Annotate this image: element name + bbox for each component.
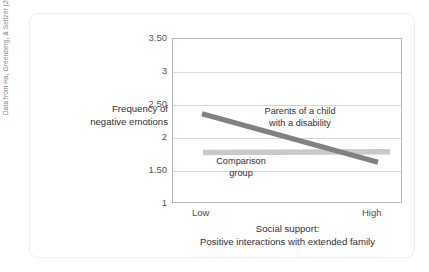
series-label-comparison-group: Comparison group xyxy=(198,155,284,179)
series-label-line-2: group xyxy=(198,167,284,179)
y-tick-label-2: 2 xyxy=(122,132,167,142)
x-tick-label-high: High xyxy=(362,207,382,218)
source-credit: Data from Ha, Greenberg, & Seltzer (2011… xyxy=(0,0,11,115)
gridline-2 xyxy=(173,138,401,139)
y-axis-title-line-1: Frequency of xyxy=(56,103,168,116)
x-axis-title: Social support: Positive interactions wi… xyxy=(150,223,425,248)
y-tick-label-3-50: 3.50 xyxy=(122,33,167,43)
series-label-parents-of-child-with-disability: Parents of a child with a disability xyxy=(239,105,361,129)
y-tick-label-1: 1 xyxy=(122,198,167,208)
x-axis-title-line-1: Social support: xyxy=(150,223,425,236)
y-axis-title-line-2: negative emotions xyxy=(56,116,168,129)
series-label-line-1: Parents of a child xyxy=(239,105,361,117)
gridline-3 xyxy=(173,72,401,73)
y-tick-label-3: 3 xyxy=(122,66,167,76)
x-tick-label-low: Low xyxy=(192,207,209,218)
series-label-line-1: Comparison xyxy=(198,155,284,167)
x-axis-title-line-2: Positive interactions with extended fami… xyxy=(150,236,425,249)
series-label-line-2: with a disability xyxy=(239,117,361,129)
y-axis-title: Frequency of negative emotions xyxy=(56,103,168,128)
y-tick-label-1-50: 1.50 xyxy=(122,165,167,175)
